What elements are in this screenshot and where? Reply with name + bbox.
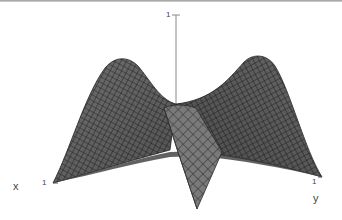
z-tick-label: 1 bbox=[166, 11, 170, 19]
x-tick-label: 1 bbox=[42, 179, 46, 187]
y-tick-label: 1 bbox=[312, 178, 316, 186]
surface-plot bbox=[0, 0, 342, 220]
x-axis-label: x bbox=[13, 181, 19, 192]
y-axis-label: y bbox=[313, 193, 319, 204]
